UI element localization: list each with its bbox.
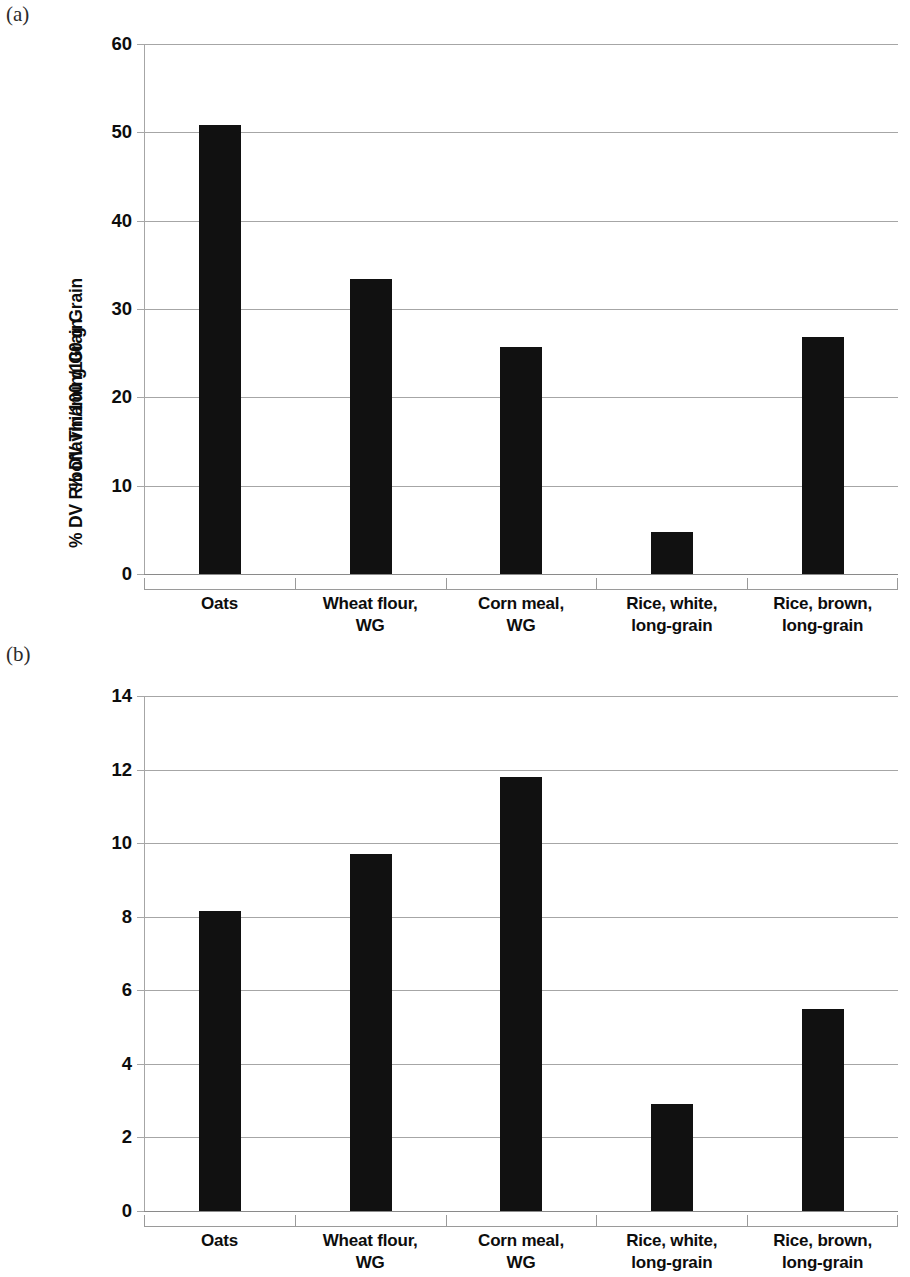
y-axis-tick [137,397,144,398]
y-axis-tick-label: 10 [111,477,132,496]
y-axis-tick [137,309,144,310]
category-tick [747,578,898,589]
category-tick [747,1215,898,1226]
category-label: Corn meal,WG [446,591,597,638]
y-axis-tick [137,132,144,133]
bar-slot [597,44,748,574]
category-label-line: long-grain [782,616,863,635]
category-tick [596,1215,747,1226]
panel-b-bar-group [145,696,898,1211]
y-axis-tick-label: 20 [111,388,132,407]
category-tick [446,578,597,589]
y-axis-tick [137,770,144,771]
category-label: Oats [144,1228,295,1275]
category-tick [295,578,446,589]
y-axis-tick [137,44,144,45]
y-axis-tick-label: 40 [111,212,132,231]
bar-slot [145,44,296,574]
panel-a-category-labels: OatsWheat flour,WGCorn meal,WGRice, whit… [144,591,898,638]
y-axis-tick-label: 12 [111,761,132,780]
category-label-line: WG [356,1253,385,1272]
y-axis-tick [137,221,144,222]
bar-slot [446,696,597,1211]
category-label: Rice, brown,long-grain [747,591,898,638]
panel-a-category-ticks [144,578,898,589]
category-label-line: Rice, brown, [773,594,872,613]
category-label: Rice, brown,long-grain [747,1228,898,1275]
bar-slot [446,44,597,574]
y-axis-tick [137,843,144,844]
panel-a-plot-area: 0102030405060 [144,44,898,574]
panel-b-y-axis-title: % DV Riboflavin/100 g Grain [66,319,87,548]
y-axis-tick-label: 8 [122,908,132,927]
y-axis-tick [137,696,144,697]
category-label-line: Wheat flour, [323,594,418,613]
category-label-line: Oats [201,1231,238,1250]
category-label: Wheat flour,WG [295,591,446,638]
y-axis-tick-label: 0 [122,1202,132,1221]
y-axis-tick-label: 0 [122,565,132,584]
category-label: Oats [144,591,295,638]
category-label: Wheat flour,WG [295,1228,446,1275]
category-tick [144,1215,295,1226]
panel-b-category-labels: OatsWheat flour,WGCorn meal,WGRice, whit… [144,1228,898,1275]
y-axis-tick-label: 6 [122,981,132,1000]
category-label-line: long-grain [782,1253,863,1272]
bar [802,337,844,574]
bar [802,1009,844,1211]
y-axis-tick [137,917,144,918]
y-axis-tick [137,1211,144,1212]
category-tick [596,578,747,589]
category-label-line: WG [507,1253,536,1272]
panel-b-plot-area: 02468101214 [144,696,898,1211]
panel-a-category-axis-line [144,589,898,590]
bar [651,1104,693,1211]
y-axis-tick-label: 4 [122,1055,132,1074]
category-label: Corn meal,WG [446,1228,597,1275]
category-tick [446,1215,597,1226]
bar [199,125,241,574]
category-label-line: long-grain [631,616,712,635]
bar-slot [747,44,898,574]
bar [651,532,693,574]
category-tick [144,578,295,589]
category-label-line: WG [356,616,385,635]
y-axis-tick-label: 2 [122,1128,132,1147]
panel-b-label: (b) [6,644,31,665]
gridline [144,1211,898,1212]
category-label-line: WG [507,616,536,635]
panel-a-label: (a) [6,4,29,25]
bar [500,347,542,574]
bar-slot [597,696,748,1211]
category-label-line: Rice, brown, [773,1231,872,1250]
bar-slot [296,44,447,574]
category-label-line: Rice, white, [626,594,717,613]
bar-slot [296,696,447,1211]
panel-a: (a) % DV Thiamin/100 g Grain 01020304050… [0,0,910,640]
bar [350,854,392,1211]
category-label-line: Wheat flour, [323,1231,418,1250]
category-label-line: long-grain [631,1253,712,1272]
y-axis-tick [137,1137,144,1138]
grain-nutrient-bar-chart-figure: (a) % DV Thiamin/100 g Grain 01020304050… [0,0,910,1277]
category-label-line: Oats [201,594,238,613]
category-label: Rice, white,long-grain [596,591,747,638]
bar [500,777,542,1211]
y-axis-tick-label: 14 [111,687,132,706]
y-axis-tick-label: 10 [111,834,132,853]
category-label-line: Rice, white, [626,1231,717,1250]
y-axis-tick-label: 30 [111,300,132,319]
bar-slot [747,696,898,1211]
panel-b-category-axis-line [144,1226,898,1227]
y-axis-tick [137,574,144,575]
bar [350,279,392,574]
gridline [144,574,898,575]
y-axis-tick [137,1064,144,1065]
category-label: Rice, white,long-grain [596,1228,747,1275]
y-axis-tick-label: 60 [111,35,132,54]
bar-slot [145,696,296,1211]
category-label-line: Corn meal, [478,1231,564,1250]
category-tick [295,1215,446,1226]
bar [199,911,241,1211]
panel-a-bar-group [145,44,898,574]
